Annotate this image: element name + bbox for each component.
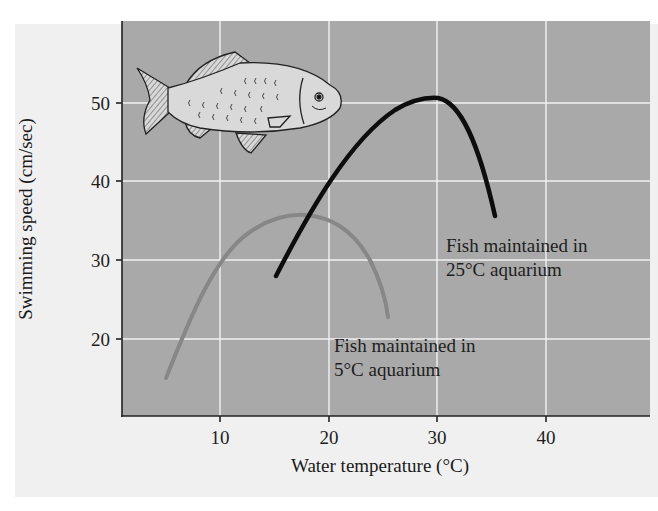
annotation-5c-line1: Fish maintained in <box>334 334 475 358</box>
annotation-25c: Fish maintained in 25°C aquarium <box>446 234 587 282</box>
annotation-5c-line2: 5°C aquarium <box>334 358 475 382</box>
x-tick-40: 40 <box>526 428 566 447</box>
y-axis-title: Swimming speed (cm/sec) <box>15 109 37 329</box>
x-tick-20: 20 <box>309 428 349 447</box>
x-tick-10: 10 <box>200 428 240 447</box>
y-tick-40: 40 <box>70 172 110 191</box>
annotation-25c-line2: 25°C aquarium <box>446 258 587 282</box>
y-tick-20: 20 <box>70 330 110 349</box>
y-tick-30: 30 <box>70 251 110 270</box>
annotation-5c: Fish maintained in 5°C aquarium <box>334 334 475 382</box>
x-tick-30: 30 <box>417 428 457 447</box>
y-tick-50: 50 <box>70 94 110 113</box>
x-axis-title: Water temperature (°C) <box>170 455 590 477</box>
annotation-25c-line1: Fish maintained in <box>446 234 587 258</box>
